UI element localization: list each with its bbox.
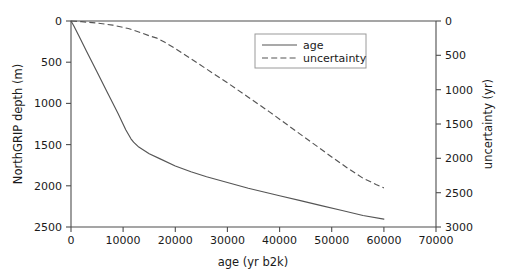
x-axis-title: age (yr b2k) <box>218 255 289 269</box>
x-ticklabel: 10000 <box>106 234 141 247</box>
y-ticklabel-right: 2500 <box>445 187 473 200</box>
x-ticklabel: 70000 <box>419 234 454 247</box>
y-axis-title: NorthGRIP depth (m) <box>11 64 25 184</box>
x-axis-ticks: 0 10000 20000 30000 40000 50000 60000 70… <box>68 227 454 247</box>
y-ticklabel-right: 1000 <box>445 84 473 97</box>
chart-legend: age uncertainty <box>255 34 367 68</box>
y2-axis-title: uncertainty (yr) <box>481 79 495 169</box>
y-axis-ticks-right: 0 500 1000 1500 2000 2500 3000 <box>436 15 473 234</box>
y-ticklabel-right: 2000 <box>445 152 473 165</box>
y-axis-ticks-left: 0 500 1000 1500 2000 2500 <box>34 15 71 234</box>
chart-canvas: 0 500 1000 1500 2000 2500 0 500 1000 150… <box>0 0 511 277</box>
y-ticklabel-right: 500 <box>445 49 466 62</box>
legend-label-uncertainty: uncertainty <box>303 52 367 65</box>
y-ticklabel-right: 3000 <box>445 221 473 234</box>
y-ticklabel-left: 500 <box>41 56 62 69</box>
axes-frame <box>71 21 436 227</box>
y-ticklabel-left: 1000 <box>34 97 62 110</box>
y-ticklabel-left: 2500 <box>34 221 62 234</box>
y-ticklabel-left: 0 <box>55 15 62 28</box>
chart-figure: 0 500 1000 1500 2000 2500 0 500 1000 150… <box>0 0 511 277</box>
x-ticklabel: 20000 <box>158 234 193 247</box>
y-ticklabel-right: 0 <box>445 15 452 28</box>
x-ticklabel: 30000 <box>210 234 245 247</box>
y-ticklabel-right: 1500 <box>445 118 473 131</box>
x-ticklabel: 60000 <box>366 234 401 247</box>
legend-label-age: age <box>303 39 324 52</box>
x-ticklabel: 40000 <box>262 234 297 247</box>
y-ticklabel-left: 1500 <box>34 139 62 152</box>
x-ticklabel: 0 <box>68 234 75 247</box>
y-ticklabel-left: 2000 <box>34 180 62 193</box>
x-ticklabel: 50000 <box>314 234 349 247</box>
